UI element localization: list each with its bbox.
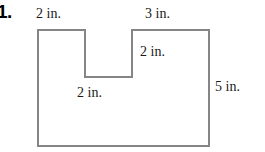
dimension-label-notch-depth: 2 in.: [140, 44, 165, 60]
notched-rectangle-shape: [0, 0, 265, 152]
geometry-problem-figure: 1. 2 in. 3 in. 2 in. 2 in. 5 in.: [0, 0, 265, 152]
notched-rectangle-outline: [38, 30, 209, 146]
dimension-label-top-left: 2 in.: [36, 6, 61, 22]
dimension-label-top-right: 3 in.: [145, 6, 170, 22]
dimension-label-notch-width: 2 in.: [77, 85, 102, 101]
dimension-label-right-side: 5 in.: [215, 79, 240, 95]
